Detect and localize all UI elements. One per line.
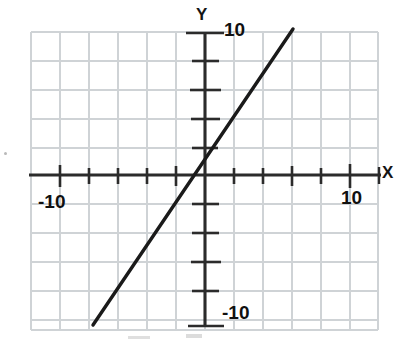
scan-artifact-smudge xyxy=(186,334,202,338)
y-axis-tick-label-negative: -10 xyxy=(222,303,249,322)
y-axis-tick-label-positive: 10 xyxy=(224,20,245,39)
x-axis-label: X xyxy=(382,164,393,181)
scan-artifact-smudge xyxy=(128,336,150,339)
coordinate-plane-svg xyxy=(0,0,399,343)
y-axis-label: Y xyxy=(196,6,207,23)
graph-figure: Y X 10 -10 -10 10 xyxy=(0,0,399,343)
x-axis-tick-label-negative: -10 xyxy=(38,192,65,211)
scan-artifact-speck xyxy=(4,152,7,155)
x-axis-tick-label-positive: 10 xyxy=(341,188,362,207)
